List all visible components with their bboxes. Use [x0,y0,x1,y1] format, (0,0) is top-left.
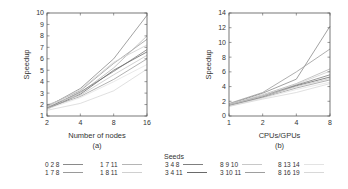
series-line [229,49,330,104]
legend-item: 8 16 19 [278,169,324,176]
x-tick-label: 8 [112,119,116,126]
legend-item: 1 8 11 [100,169,142,176]
y-tick-label: 14 [218,9,226,16]
legend-label: 3 4 8 [165,161,179,168]
x-tick-label: 2 [45,119,49,126]
x-tick-label: 8 [328,119,332,126]
series-line [229,80,330,106]
legend-label: 1 7 8 [45,169,59,176]
y-tick-label: 12 [218,24,226,31]
x-axis-label: Number of nodes [68,131,126,140]
legend-item: 1 7 8 [45,169,83,176]
x-tick-label: 1 [227,119,231,126]
y-tick-label: 8 [222,54,226,61]
legend-item: 8 9 10 [220,161,262,168]
legend-line-swatch [122,164,142,165]
y-axis-label: Speedup [22,49,31,79]
series-line [47,15,147,107]
series-line [47,45,147,107]
legend-item: 3 10 11 [220,169,265,176]
legend-line-swatch [187,172,207,173]
legend-label: 8 13 14 [278,161,300,168]
panel-caption: (b) [275,141,285,150]
y-tick-label: 6 [222,68,226,75]
legend-item: 3 4 8 [165,161,203,168]
series-line [229,84,330,107]
y-tick-label: 1 [40,112,44,119]
y-tick-label: 0 [222,112,226,119]
legend-line-swatch [63,164,83,165]
x-tick-label: 2 [261,119,265,126]
y-tick-label: 8 [40,32,44,39]
y-tick-label: 6 [40,55,44,62]
legend-label: 1 8 11 [100,169,118,176]
legend-item: 3 4 11 [165,169,207,176]
legend-line-swatch [63,172,83,173]
y-axis-label: Speedup [204,49,213,79]
legend-item: 8 13 14 [278,161,324,168]
y-tick-label: 2 [222,98,226,105]
legend-label: 1 7 11 [100,161,118,168]
panel-caption: (a) [92,141,102,150]
x-tick-label: 4 [78,119,82,126]
legend-line-swatch [245,172,265,173]
legend-label: 3 4 11 [165,169,183,176]
legend-label: 3 10 11 [220,169,241,176]
y-tick-label: 4 [222,83,226,90]
x-axis-label: CPUs/GPUs [259,131,301,140]
legend-line-swatch [183,164,203,165]
x-tick-label: 16 [143,119,151,126]
y-tick-label: 5 [40,67,44,74]
legend-line-swatch [304,164,324,165]
y-tick-label: 10 [218,39,226,46]
legend-item: 0 2 8 [45,161,83,168]
y-tick-label: 4 [40,78,44,85]
panel-b-cpus-gpus-speedup: 024681012141248SpeedupCPUs/GPUs(b) [204,9,332,150]
legend-title: Seeds [0,153,348,160]
legend-label: 8 16 19 [278,169,300,176]
legend-line-swatch [304,172,324,173]
legend-line-swatch [122,172,142,173]
x-tick-label: 4 [294,119,298,126]
legend-item: 1 7 11 [100,161,142,168]
legend-label: 8 9 10 [220,161,238,168]
y-tick-label: 9 [40,21,44,28]
legend-line-swatch [242,164,262,165]
panel-a-nodes-speedup: 1234567891024816SpeedupNumber of nodes(a… [22,9,151,150]
legend-label: 0 2 8 [45,161,59,168]
y-tick-label: 2 [40,101,44,108]
y-tick-label: 7 [40,44,44,51]
y-tick-label: 10 [36,9,44,16]
y-tick-label: 3 [40,90,44,97]
